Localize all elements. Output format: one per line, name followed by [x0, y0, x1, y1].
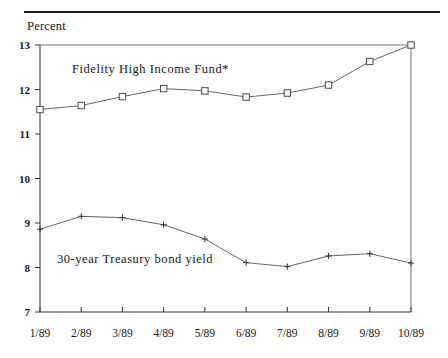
data-point-marker — [325, 253, 331, 259]
series-label-fidelity-fund: Fidelity High Income Fund* — [72, 62, 229, 77]
data-point-marker — [160, 85, 166, 91]
chart-figure: Percent 78910111213 1/892/893/894/895/89… — [0, 0, 448, 358]
series-line-0 — [40, 45, 411, 110]
data-point-marker — [284, 90, 290, 96]
x-tick-label: 9/89 — [347, 327, 393, 339]
data-point-marker — [119, 215, 125, 221]
series-label-treasury-yield: 30-year Treasury bond yield — [57, 252, 213, 267]
y-tick-label: 12 — [8, 84, 30, 96]
y-tick-label: 10 — [8, 173, 30, 185]
x-tick-label: 3/89 — [99, 327, 145, 339]
x-tick-label: 8/89 — [306, 327, 352, 339]
y-tick-label: 7 — [8, 306, 30, 318]
data-point-marker — [408, 42, 414, 48]
data-point-marker — [408, 260, 414, 266]
data-point-marker — [243, 260, 249, 266]
data-point-marker — [78, 102, 84, 108]
x-tick-label: 1/89 — [17, 327, 63, 339]
data-point-marker — [325, 82, 331, 88]
data-point-marker — [284, 264, 290, 270]
data-point-marker — [202, 88, 208, 94]
y-tick-label: 11 — [8, 128, 30, 140]
x-tick-label: 6/89 — [223, 327, 269, 339]
data-point-marker — [243, 94, 249, 100]
plot-area — [0, 0, 448, 358]
data-point-marker — [161, 222, 167, 228]
x-tick-label: 2/89 — [58, 327, 104, 339]
x-tick-label: 5/89 — [182, 327, 228, 339]
y-tick-label: 9 — [8, 217, 30, 229]
data-point-marker — [202, 236, 208, 242]
y-tick-label: 8 — [8, 262, 30, 274]
data-point-marker — [37, 226, 43, 232]
data-point-marker — [119, 93, 125, 99]
x-tick-label: 7/89 — [264, 327, 310, 339]
x-tick-label: 4/89 — [141, 327, 187, 339]
y-tick-label: 13 — [8, 39, 30, 51]
data-point-marker — [37, 106, 43, 112]
data-point-marker — [78, 213, 84, 219]
data-point-marker — [367, 251, 373, 257]
x-tick-label: 10/89 — [388, 327, 434, 339]
data-point-marker — [367, 58, 373, 64]
